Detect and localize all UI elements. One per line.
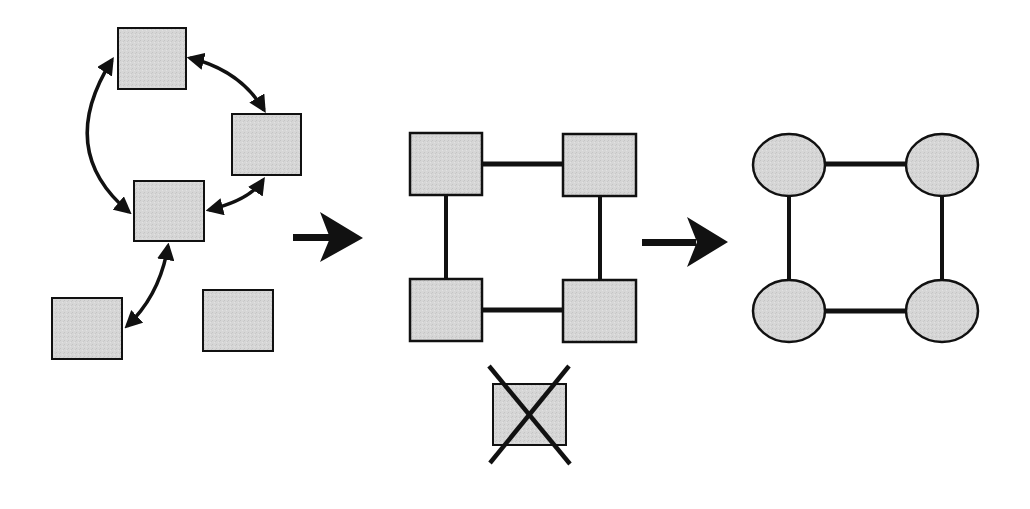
node-tl	[410, 133, 482, 195]
node-bl	[753, 280, 825, 342]
panel-square-grid	[410, 133, 636, 464]
node-br	[563, 280, 636, 342]
node-d	[52, 298, 122, 359]
node-br	[906, 280, 978, 342]
edge-c-d	[127, 246, 168, 326]
edge-b-c	[209, 180, 263, 210]
node-e-isolated	[203, 290, 273, 351]
right-arrow-icon	[293, 212, 363, 262]
node-a	[118, 28, 186, 89]
node-c	[134, 181, 204, 241]
diagram-canvas	[0, 0, 1030, 509]
right-arrow-icon	[642, 217, 728, 267]
node-bl	[410, 279, 482, 341]
panel-unstructured	[52, 28, 301, 359]
node-tr	[906, 134, 978, 196]
node-tl	[753, 134, 825, 196]
edge-a-b	[190, 58, 264, 110]
removed-node	[489, 366, 570, 464]
node-tr	[563, 134, 636, 196]
panel-ellipse-graph	[753, 134, 978, 342]
node-b	[232, 114, 301, 175]
